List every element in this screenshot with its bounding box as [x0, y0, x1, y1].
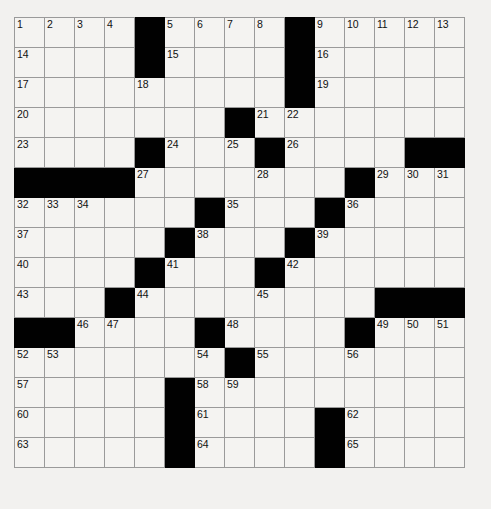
grid-cell[interactable] [135, 198, 165, 228]
grid-cell[interactable]: 27 [135, 168, 165, 198]
grid-cell[interactable]: 51 [435, 318, 465, 348]
grid-cell[interactable] [315, 378, 345, 408]
grid-cell[interactable] [45, 258, 75, 288]
grid-cell[interactable]: 26 [285, 138, 315, 168]
grid-cell[interactable]: 46 [75, 318, 105, 348]
grid-cell[interactable]: 8 [255, 18, 285, 48]
grid-cell[interactable] [135, 408, 165, 438]
grid-cell[interactable] [225, 258, 255, 288]
grid-cell[interactable] [135, 438, 165, 468]
grid-cell[interactable] [45, 288, 75, 318]
grid-cell[interactable] [375, 438, 405, 468]
grid-cell[interactable]: 56 [345, 348, 375, 378]
grid-cell[interactable] [165, 108, 195, 138]
grid-cell[interactable]: 48 [225, 318, 255, 348]
grid-cell[interactable]: 62 [345, 408, 375, 438]
grid-cell[interactable]: 58 [195, 378, 225, 408]
grid-cell[interactable]: 34 [75, 198, 105, 228]
grid-cell[interactable]: 63 [15, 438, 45, 468]
grid-cell[interactable] [75, 138, 105, 168]
grid-cell[interactable]: 35 [225, 198, 255, 228]
grid-cell[interactable]: 1 [15, 18, 45, 48]
grid-cell[interactable]: 20 [15, 108, 45, 138]
grid-cell[interactable]: 3 [75, 18, 105, 48]
grid-cell[interactable] [435, 228, 465, 258]
grid-cell[interactable] [105, 198, 135, 228]
grid-cell[interactable] [165, 288, 195, 318]
grid-cell[interactable] [105, 48, 135, 78]
grid-cell[interactable] [105, 78, 135, 108]
grid-cell[interactable] [405, 348, 435, 378]
grid-cell[interactable]: 18 [135, 78, 165, 108]
grid-cell[interactable] [375, 258, 405, 288]
grid-cell[interactable] [345, 138, 375, 168]
grid-cell[interactable]: 40 [15, 258, 45, 288]
grid-cell[interactable] [75, 288, 105, 318]
grid-cell[interactable] [225, 78, 255, 108]
grid-cell[interactable] [285, 198, 315, 228]
grid-cell[interactable] [75, 48, 105, 78]
grid-cell[interactable] [435, 48, 465, 78]
grid-cell[interactable]: 22 [285, 108, 315, 138]
grid-cell[interactable]: 61 [195, 408, 225, 438]
grid-cell[interactable] [135, 228, 165, 258]
grid-cell[interactable] [285, 288, 315, 318]
grid-cell[interactable] [135, 318, 165, 348]
grid-cell[interactable] [285, 438, 315, 468]
grid-cell[interactable] [255, 48, 285, 78]
grid-cell[interactable]: 9 [315, 18, 345, 48]
grid-cell[interactable]: 47 [105, 318, 135, 348]
grid-cell[interactable] [345, 78, 375, 108]
crossword-grid[interactable]: 1234567891011121314151617181920212223242… [14, 17, 465, 468]
grid-cell[interactable]: 6 [195, 18, 225, 48]
grid-cell[interactable]: 25 [225, 138, 255, 168]
grid-cell[interactable] [105, 348, 135, 378]
grid-cell[interactable]: 55 [255, 348, 285, 378]
grid-cell[interactable] [195, 258, 225, 288]
grid-cell[interactable] [195, 108, 225, 138]
grid-cell[interactable] [375, 378, 405, 408]
grid-cell[interactable] [45, 108, 75, 138]
grid-cell[interactable] [165, 198, 195, 228]
grid-cell[interactable] [255, 438, 285, 468]
grid-cell[interactable] [75, 408, 105, 438]
grid-cell[interactable]: 38 [195, 228, 225, 258]
grid-cell[interactable]: 15 [165, 48, 195, 78]
grid-cell[interactable] [225, 228, 255, 258]
grid-cell[interactable] [75, 378, 105, 408]
grid-cell[interactable] [315, 168, 345, 198]
grid-cell[interactable] [195, 168, 225, 198]
grid-cell[interactable] [345, 378, 375, 408]
grid-cell[interactable] [255, 318, 285, 348]
grid-cell[interactable] [165, 318, 195, 348]
grid-cell[interactable]: 13 [435, 18, 465, 48]
grid-cell[interactable]: 24 [165, 138, 195, 168]
grid-cell[interactable] [135, 348, 165, 378]
grid-cell[interactable] [105, 378, 135, 408]
grid-cell[interactable] [435, 378, 465, 408]
grid-cell[interactable] [315, 348, 345, 378]
grid-cell[interactable]: 21 [255, 108, 285, 138]
grid-cell[interactable]: 11 [375, 18, 405, 48]
grid-cell[interactable] [75, 438, 105, 468]
grid-cell[interactable] [315, 258, 345, 288]
grid-cell[interactable] [225, 48, 255, 78]
grid-cell[interactable]: 32 [15, 198, 45, 228]
grid-cell[interactable] [45, 78, 75, 108]
grid-cell[interactable]: 65 [345, 438, 375, 468]
grid-cell[interactable] [225, 408, 255, 438]
grid-cell[interactable] [405, 108, 435, 138]
grid-cell[interactable]: 37 [15, 228, 45, 258]
grid-cell[interactable] [105, 138, 135, 168]
grid-cell[interactable]: 60 [15, 408, 45, 438]
grid-cell[interactable] [105, 228, 135, 258]
grid-cell[interactable] [315, 138, 345, 168]
grid-cell[interactable] [345, 288, 375, 318]
grid-cell[interactable] [105, 108, 135, 138]
grid-cell[interactable] [405, 258, 435, 288]
grid-cell[interactable]: 45 [255, 288, 285, 318]
grid-cell[interactable] [225, 168, 255, 198]
grid-cell[interactable] [435, 78, 465, 108]
grid-cell[interactable] [45, 48, 75, 78]
grid-cell[interactable] [315, 108, 345, 138]
